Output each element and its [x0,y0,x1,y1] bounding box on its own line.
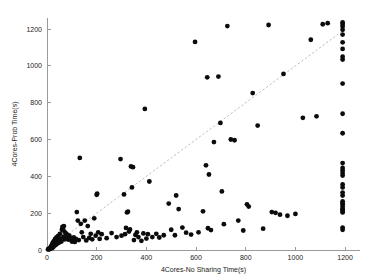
x-tick-label: 1200 [337,254,353,261]
scatter-point [340,182,345,187]
y-tick-label: 400 [30,173,42,180]
y-tick-label: 200 [30,210,42,217]
scatter-point [325,21,330,26]
scatter-point [104,236,109,241]
y-tick-label: 800 [30,99,42,106]
scatter-point [340,190,345,195]
scatter-point [74,210,79,215]
scatter-point [314,114,319,119]
scatter-point [193,40,198,45]
scatter-plot-figure: 020040060080010001200 020040060080010001… [0,0,377,280]
y-tick-label: 0 [38,247,42,254]
y-axis-title: 4Cores-Prob Time(s) [11,102,19,167]
scatter-point [196,230,201,235]
scatter-point [131,165,136,170]
scatter-point [261,226,266,231]
scatter-point [157,235,162,240]
scatter-point [340,32,345,37]
scatter-point [241,228,246,233]
x-axis-title: 4Cores-No Sharing Time(s) [161,266,246,274]
scatter-point [236,218,241,223]
scatter-point [130,185,135,190]
scatter-point [293,212,298,217]
scatter-point [82,218,87,223]
scatter-point [99,232,104,237]
scatter-point [114,235,119,240]
scatter-point [232,138,237,143]
scatter-point [147,179,152,184]
scatter-point [95,191,100,196]
scatter-point [122,192,127,197]
scatter-point [285,213,290,218]
scatter-point [340,225,345,230]
scatter-point [281,72,286,77]
scatter-point [92,216,97,221]
x-tick-label: 0 [45,254,49,261]
scatter-point [250,91,255,96]
scatter-point [77,156,82,161]
scatter-point-group [46,20,345,252]
scatter-point [340,199,345,204]
scatter-point [205,75,210,80]
scatter-point [278,212,283,217]
identity-reference-line [47,29,345,250]
x-tick-label: 200 [91,254,103,261]
scatter-point [212,140,217,145]
scatter-point [161,233,166,238]
scatter-point [225,24,230,29]
y-tick-label: 600 [30,136,42,143]
scatter-point [76,238,81,243]
scatter-point [109,231,114,236]
scatter-point [340,40,345,45]
scatter-point [273,210,278,215]
x-tick-label: 600 [190,254,202,261]
scatter-point [135,230,140,235]
scatter-point [246,204,251,209]
scatter-point [126,209,131,214]
scatter-point [142,107,147,112]
scatter-point [340,81,345,86]
scatter-point [219,189,224,194]
scatter-point [255,123,260,128]
scatter-point [90,237,95,242]
y-axis-tick-labels: 020040060080010001200 [26,26,42,254]
scatter-point [97,237,102,242]
scatter-point [150,235,155,240]
scatter-point [340,131,345,136]
scatter-point [320,22,325,27]
scatter-point [340,111,345,116]
scatter-point [300,115,305,120]
scatter-point [79,230,84,235]
scatter-point [78,221,83,226]
scatter-point [207,172,212,177]
scatter-point [340,161,345,166]
scatter-point [144,236,149,241]
x-tick-label: 1000 [288,254,304,261]
scatter-point [221,222,226,227]
scatter-point [166,201,171,206]
x-axis-tick-labels: 020040060080010001200 [45,254,353,261]
scatter-point [308,37,313,42]
scatter-point [139,238,144,243]
scatter-point [169,227,174,232]
scatter-point [88,231,93,236]
scatter-point [174,193,179,198]
scatter-point [266,23,271,28]
scatter-point [340,20,345,25]
scatter-point [173,233,178,238]
y-axis-tick-marks [47,29,51,250]
scatter-point [118,157,123,162]
scatter-point [209,228,214,233]
x-tick-label: 400 [141,254,153,261]
x-tick-label: 800 [240,254,252,261]
scatter-point [216,74,221,79]
x-axis-tick-marks [47,247,345,251]
scatter-point [180,225,185,230]
scatter-point [340,165,345,170]
reference-line-group [47,29,345,250]
scatter-point [184,230,189,235]
y-tick-label: 1200 [26,26,42,33]
scatter-point [340,54,345,59]
scatter-point [61,224,66,229]
scatter-point [218,121,223,126]
